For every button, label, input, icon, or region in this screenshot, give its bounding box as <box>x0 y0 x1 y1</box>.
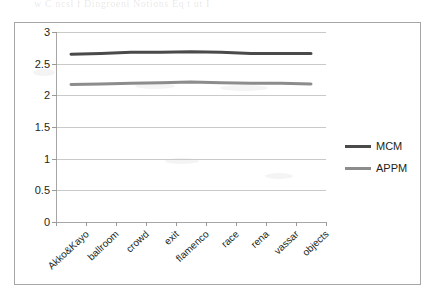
chart-legend: MCM APPM <box>345 135 417 179</box>
y-axis-tick-label: 0 <box>44 217 50 228</box>
x-axis-tick-label-text: race <box>220 229 241 250</box>
x-axis-tick-label: crowd <box>124 229 150 255</box>
x-axis-tick-mark <box>86 222 87 226</box>
series-line-mcm <box>71 52 311 55</box>
x-axis-tick-mark <box>266 222 267 226</box>
x-axis-tick-mark <box>236 222 237 226</box>
gridline <box>56 32 326 33</box>
gridline <box>56 127 326 128</box>
gridline <box>56 190 326 191</box>
plot-area: 00.511.522.53Akko&Kayoballroomcrowdexitf… <box>56 32 326 222</box>
x-axis-tick-label: rena <box>249 229 270 250</box>
y-axis-tick-label: 0.5 <box>35 185 50 196</box>
legend-item-mcm: MCM <box>345 135 417 157</box>
y-axis-tick-mark <box>52 32 57 33</box>
x-axis-tick-label-text: objects <box>301 229 331 258</box>
x-axis-tick-label-text: crowd <box>124 229 150 255</box>
x-axis-tick-mark <box>176 222 177 226</box>
y-axis-tick-mark <box>52 95 57 96</box>
gridline <box>56 95 326 96</box>
gridline <box>56 159 326 160</box>
x-axis-tick-mark <box>326 222 327 226</box>
legend-swatch-appm <box>345 167 371 170</box>
legend-swatch-mcm <box>345 145 371 148</box>
y-axis-tick-mark <box>52 159 57 160</box>
x-axis-tick-label: objects <box>301 229 331 258</box>
gridline <box>56 222 326 223</box>
y-axis-tick-mark <box>52 64 57 65</box>
x-axis-tick-mark <box>146 222 147 226</box>
x-axis-tick-label-text: rena <box>249 229 270 250</box>
y-axis-tick-label: 3 <box>44 27 50 38</box>
legend-label-mcm: MCM <box>376 141 402 152</box>
x-axis-tick-label: exit <box>163 229 181 247</box>
legend-label-appm: APPM <box>376 163 407 174</box>
x-axis-tick-mark <box>206 222 207 226</box>
x-axis-tick-label: Akko&Kayo <box>46 229 91 272</box>
series-line-appm <box>71 82 311 85</box>
x-axis-tick-label-text: ballroom <box>86 229 121 262</box>
y-axis-tick-label: 1.5 <box>35 122 50 133</box>
x-axis-tick-label-text: vassar <box>272 229 300 256</box>
x-axis-tick-mark <box>116 222 117 226</box>
scanned-page-ghost-header: w C ncsl f Dingroeni Notions Eq t ut I <box>34 0 414 14</box>
y-axis-tick-label: 2 <box>44 90 50 101</box>
x-axis-tick-label: ballroom <box>86 229 121 262</box>
legend-item-appm: APPM <box>345 157 417 179</box>
y-axis-tick-mark <box>52 190 57 191</box>
chart-frame: 00.511.522.53Akko&Kayoballroomcrowdexitf… <box>14 22 421 285</box>
x-axis-tick-label: vassar <box>272 229 300 256</box>
y-axis-tick-label: 2.5 <box>35 58 50 69</box>
x-axis-tick-mark <box>56 222 57 226</box>
x-axis-tick-mark <box>296 222 297 226</box>
x-axis-tick-label-text: Akko&Kayo <box>46 229 91 272</box>
x-axis-tick-label-text: exit <box>163 229 181 247</box>
gridline <box>56 64 326 65</box>
y-axis-tick-label: 1 <box>44 153 50 164</box>
x-axis-tick-label: race <box>220 229 241 250</box>
y-axis-tick-mark <box>52 127 57 128</box>
